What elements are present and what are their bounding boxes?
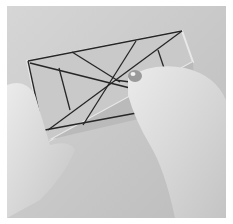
photo: [0, 0, 233, 224]
photo-illustration: [0, 0, 233, 224]
metal-bead: [128, 70, 142, 82]
